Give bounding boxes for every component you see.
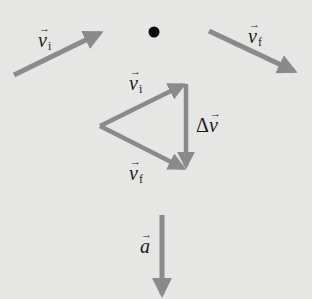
center-point [149, 27, 160, 38]
label-v-final-triangle: vf [129, 163, 143, 185]
label-acceleration: a [140, 236, 150, 256]
label-v-initial-triangle: vi [129, 73, 142, 95]
v-initial-arrow [14, 33, 100, 75]
label-v-initial-top: vi [38, 30, 51, 52]
label-delta-v: Δv [196, 115, 218, 135]
label-v-final-top: vf [248, 26, 262, 48]
triangle-v-final-arrow [100, 126, 183, 168]
